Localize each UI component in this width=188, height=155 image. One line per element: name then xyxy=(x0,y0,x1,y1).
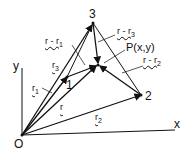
label-r2: r2 xyxy=(95,113,102,124)
leader-r-minus-r3 xyxy=(98,35,115,42)
label-r-minus-r3: r - r3 xyxy=(117,27,135,38)
x-axis xyxy=(22,130,175,135)
diagram-lines xyxy=(0,0,188,155)
label-r-minus-r1: r - r1 xyxy=(45,37,63,48)
vector-r-minus-r2 xyxy=(100,66,141,95)
y-axis-label: y xyxy=(13,60,19,72)
point-2-label: 2 xyxy=(145,90,152,102)
label-r: r xyxy=(60,103,63,112)
label-r3: r3 xyxy=(52,61,59,72)
origin-label: O xyxy=(14,138,23,150)
point-1-label: 1 xyxy=(66,79,73,91)
leader-r-minus-r2 xyxy=(122,66,143,73)
leader-P xyxy=(104,50,125,63)
vector-diagram: 3 2 1 P(x,y) O y x r - r3 r - r2 r - r1 … xyxy=(0,0,188,155)
label-r-minus-r2: r - r2 xyxy=(143,56,161,67)
point-P-label: P(x,y) xyxy=(126,42,155,53)
point-3-label: 3 xyxy=(89,8,96,20)
vector-r2 xyxy=(22,95,141,135)
label-r1: r1 xyxy=(32,84,39,95)
x-axis-label: x xyxy=(174,118,180,130)
